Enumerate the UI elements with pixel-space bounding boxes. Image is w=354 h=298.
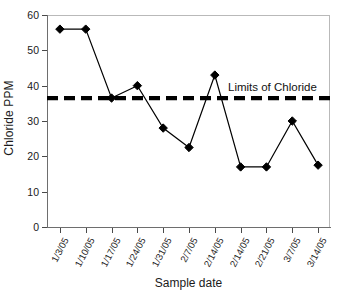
data-point-marker — [236, 163, 244, 171]
limit-line-label: Limits of Chloride — [228, 81, 317, 93]
chart-data-layer — [0, 0, 354, 298]
x-axis-title: Sample date — [47, 276, 330, 290]
data-point-marker — [133, 81, 141, 89]
chart-figure: Chloride PPM 0102030405060 1/3/051/10/05… — [0, 0, 354, 298]
data-point-marker — [56, 25, 64, 33]
data-point-marker — [82, 25, 90, 33]
data-point-marker — [211, 71, 219, 79]
data-point-marker — [314, 161, 322, 169]
data-point-marker — [262, 163, 270, 171]
data-point-marker — [288, 117, 296, 125]
